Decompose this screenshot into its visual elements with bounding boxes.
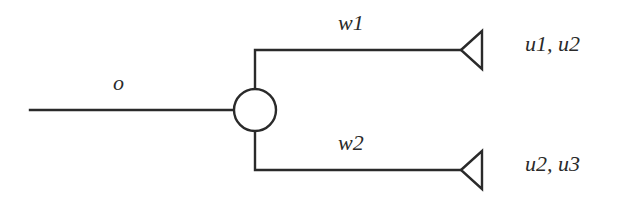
- branch-link-w1: [255, 50, 461, 89]
- branch-1-link-label: w1: [338, 12, 364, 34]
- receiver-terminal-triangle-icon-1: [461, 31, 482, 69]
- diagram-canvas: o w1 w2 u1, u2 u2, u3: [0, 0, 620, 197]
- branch-1-receivers-label: u1, u2: [525, 33, 580, 55]
- receiver-terminal-triangle-icon-2: [461, 151, 482, 189]
- branch-2-link-label: w2: [338, 132, 364, 154]
- branch-2-receivers-label: u2, u3: [525, 153, 580, 175]
- branch-node-circle-icon: [234, 89, 276, 131]
- source-link-label: o: [113, 72, 124, 94]
